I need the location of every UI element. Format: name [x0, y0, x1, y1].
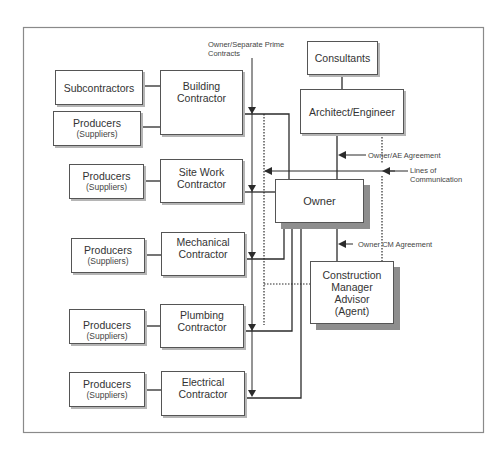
cm-line3: Advisor [334, 293, 369, 305]
plumbing-contractor-box: Plumbing Contractor [160, 304, 244, 348]
producers-box-electrical: Producers (Suppliers) [69, 372, 145, 407]
building-contractor-box: Building Contractor [160, 70, 243, 135]
cm-line1: Construction [323, 269, 382, 281]
owner-box: Owner [275, 179, 364, 223]
site-work-contractor-line1: Site Work [179, 166, 224, 178]
electrical-contractor-line2: Contractor [178, 388, 227, 400]
prime-contracts-note-line2: Contracts [208, 49, 284, 58]
prime-contracts-note-line1: Owner/Separate Prime [208, 40, 284, 49]
cm-line4: (Agent) [335, 305, 369, 317]
mechanical-contractor-box: Mechanical Contractor [161, 232, 245, 276]
producers-label: Producers [84, 244, 132, 256]
plumbing-contractor-line2: Contractor [177, 321, 226, 333]
suppliers-label: (Suppliers) [76, 129, 117, 140]
lines-of-communication-label: Lines of Communication [410, 166, 462, 184]
suppliers-label: (Suppliers) [86, 182, 127, 193]
electrical-contractor-box: Electrical Contractor [161, 371, 245, 416]
electrical-contractor-line1: Electrical [182, 376, 225, 388]
plumbing-contractor-line1: Plumbing [180, 309, 224, 321]
suppliers-label: (Suppliers) [86, 390, 127, 401]
suppliers-label: (Suppliers) [86, 331, 127, 342]
building-contractor-line1: Building [183, 80, 220, 92]
producers-box-building: Producers (Suppliers) [53, 111, 141, 146]
owner-label: Owner [303, 195, 335, 207]
diagram-canvas: Owner/Separate Prime Contracts Consultan… [0, 0, 504, 453]
site-work-contractor-line2: Contractor [177, 178, 226, 190]
construction-manager-box: Construction Manager Advisor (Agent) [310, 261, 394, 324]
mechanical-contractor-line2: Contractor [178, 248, 227, 260]
subcontractors-label: Subcontractors [64, 82, 135, 94]
subcontractors-box: Subcontractors [55, 70, 143, 105]
producers-label: Producers [73, 117, 121, 129]
producers-box-plumbing: Producers (Suppliers) [69, 309, 145, 344]
lines-of-communication-line1: Lines of [410, 166, 462, 175]
architect-engineer-box: Architect/Engineer [300, 89, 404, 134]
producers-box-mechanical: Producers (Suppliers) [71, 238, 145, 273]
architect-engineer-label: Architect/Engineer [309, 106, 395, 118]
consultants-label: Consultants [315, 52, 370, 64]
lines-of-communication-line2: Communication [410, 175, 462, 184]
site-work-contractor-box: Site Work Contractor [160, 159, 243, 203]
producers-label: Producers [83, 170, 131, 182]
owner-ae-agreement-label: Owner/AE Agreement [368, 151, 441, 160]
cm-line2: Manager [331, 281, 372, 293]
producers-label: Producers [83, 319, 131, 331]
suppliers-label: (Suppliers) [87, 256, 128, 267]
building-contractor-line2: Contractor [177, 92, 226, 104]
producers-box-sitework: Producers (Suppliers) [69, 164, 144, 199]
producers-label: Producers [83, 378, 131, 390]
mechanical-contractor-line1: Mechanical [176, 236, 229, 248]
prime-contracts-note: Owner/Separate Prime Contracts [208, 40, 284, 58]
owner-cm-agreement-label: Owner CM Agreement [358, 240, 432, 249]
consultants-box: Consultants [307, 41, 378, 75]
